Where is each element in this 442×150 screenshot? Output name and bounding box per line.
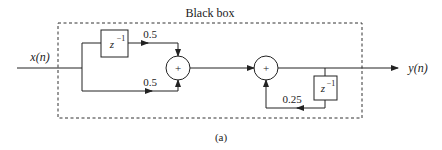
black-box-boundary <box>58 23 362 118</box>
gain-feedback: 0.25 <box>282 93 302 105</box>
adder-2-symbol: + <box>263 62 269 74</box>
delay-1-exp: −1 <box>117 34 126 43</box>
delay-2-exp: −1 <box>327 79 336 88</box>
adder-1-symbol: + <box>175 62 181 74</box>
figure-caption: (a) <box>215 131 228 144</box>
gain-top: 0.5 <box>143 28 157 40</box>
black-box-title: Black box <box>186 6 235 20</box>
delay-1-z: z <box>109 38 115 50</box>
gain-bottom: 0.5 <box>143 76 157 88</box>
adder-2: + <box>254 56 278 80</box>
adder-1: + <box>166 56 190 80</box>
delay-block-2: z −1 <box>314 76 337 100</box>
input-label: x(n) <box>29 50 49 64</box>
delay-block-1: z −1 <box>101 30 128 57</box>
delay-2-z: z <box>320 82 326 94</box>
output-label: y(n) <box>407 61 427 75</box>
block-diagram: Black box x(n) z −1 0.5 0.5 + + y(n) z −… <box>0 0 442 150</box>
